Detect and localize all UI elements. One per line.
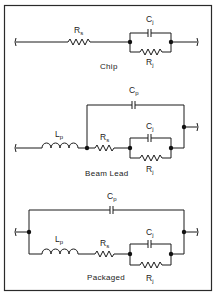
right-terminal-icon bbox=[197, 38, 198, 46]
wire bbox=[29, 210, 110, 254]
wire bbox=[151, 244, 171, 254]
rj-label: Rj bbox=[146, 273, 153, 284]
cj-label: Cj bbox=[146, 121, 153, 132]
circuit-beam-lead: Cp Lp Rs Cj Rj Beam Lead bbox=[15, 85, 198, 178]
circuit-packaged: Cp Lp Rs Cj Rj Packaged bbox=[15, 191, 198, 284]
junction-capacitor-icon bbox=[148, 134, 151, 142]
left-terminal-icon bbox=[15, 228, 16, 236]
node-dot bbox=[169, 252, 173, 256]
left-terminal-icon bbox=[15, 144, 16, 152]
series-resistor-icon bbox=[68, 39, 90, 45]
node-dot bbox=[27, 230, 31, 234]
junction-resistor-icon bbox=[140, 262, 162, 268]
right-terminal-icon bbox=[197, 123, 198, 131]
cj-label: Cj bbox=[146, 14, 153, 25]
wire bbox=[135, 105, 184, 148]
junction-resistor-icon bbox=[140, 49, 162, 55]
caption-packaged: Packaged bbox=[87, 273, 125, 282]
rj-label: Rj bbox=[146, 57, 153, 68]
junction-capacitor-icon bbox=[148, 240, 151, 248]
parasitic-capacitor-icon bbox=[132, 101, 135, 109]
lp-label: Lp bbox=[55, 129, 64, 140]
node-dot bbox=[128, 252, 132, 256]
node-dot bbox=[85, 146, 89, 150]
caption-beam-lead: Beam Lead bbox=[85, 169, 129, 178]
diode-equivalent-circuits-figure: Rs Cj Rj Chip Cp Lp Rs Cj R bbox=[0, 0, 216, 296]
parasitic-capacitor-icon bbox=[110, 206, 113, 214]
rj-label: Rj bbox=[146, 164, 153, 175]
lp-label: Lp bbox=[55, 234, 64, 245]
cp-label: Cp bbox=[107, 191, 117, 202]
cj-label: Cj bbox=[146, 227, 153, 238]
node-dot bbox=[128, 40, 132, 44]
rs-label: Rs bbox=[100, 238, 109, 249]
node-dot bbox=[169, 146, 173, 150]
lead-inductor-icon bbox=[42, 143, 78, 148]
caption-chip: Chip bbox=[100, 62, 118, 71]
left-terminal-icon bbox=[15, 38, 16, 46]
wire bbox=[151, 138, 171, 148]
series-resistor-icon bbox=[95, 145, 114, 151]
wire bbox=[87, 105, 132, 148]
node-dot bbox=[128, 146, 132, 150]
series-resistor-icon bbox=[95, 251, 114, 257]
circuit-chip: Rs Cj Rj Chip bbox=[15, 14, 198, 71]
lead-inductor-icon bbox=[42, 249, 78, 254]
cp-label: Cp bbox=[129, 85, 139, 96]
wire bbox=[130, 33, 148, 42]
wire bbox=[130, 254, 140, 265]
wire bbox=[130, 138, 148, 148]
right-terminal-icon bbox=[197, 228, 198, 236]
wire bbox=[130, 244, 148, 254]
wire bbox=[151, 33, 171, 42]
junction-resistor-icon bbox=[140, 155, 162, 161]
junction-capacitor-icon bbox=[148, 29, 151, 37]
rs-label: Rs bbox=[74, 25, 83, 36]
rs-label: Rs bbox=[100, 132, 109, 143]
